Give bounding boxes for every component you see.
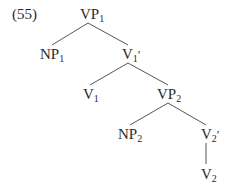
node-v2-bar: V2′ xyxy=(201,127,220,142)
edge-v1bar-v1 xyxy=(90,63,128,85)
edge-vp2-np2 xyxy=(130,103,168,125)
node-label: V xyxy=(201,166,212,182)
node-label: VP xyxy=(80,6,99,22)
node-subscript: 1 xyxy=(59,53,64,64)
edge-vp1-v1bar xyxy=(88,23,128,45)
edge-vp1-np1 xyxy=(52,23,88,45)
node-subscript: 2 xyxy=(212,173,217,184)
edge-v1bar-vp2 xyxy=(128,63,168,85)
tree-edges xyxy=(0,0,230,190)
edge-vp2-v2bar xyxy=(168,103,206,125)
node-vp1: VP1 xyxy=(80,7,104,22)
node-v1-bar: V1′ xyxy=(122,47,141,62)
node-subscript: 1 xyxy=(94,93,99,104)
node-subscript: 2 xyxy=(176,93,181,104)
node-label: V xyxy=(83,86,94,102)
node-label: V xyxy=(201,126,212,142)
node-np1: NP1 xyxy=(40,47,64,62)
node-prime: ′ xyxy=(217,127,220,142)
node-v1: V1 xyxy=(83,87,99,102)
node-label: V xyxy=(122,46,133,62)
node-vp2: VP2 xyxy=(157,87,181,102)
node-label: NP xyxy=(118,126,137,142)
node-np2: NP2 xyxy=(118,127,142,142)
node-label: VP xyxy=(157,86,176,102)
node-subscript: 2 xyxy=(137,133,142,144)
node-v2: V2 xyxy=(201,167,217,182)
node-label: NP xyxy=(40,46,59,62)
node-subscript: 1 xyxy=(99,13,104,24)
node-prime: ′ xyxy=(138,47,141,62)
